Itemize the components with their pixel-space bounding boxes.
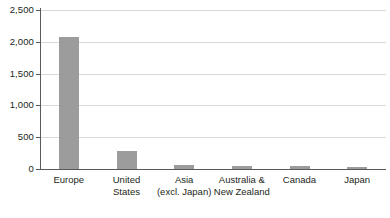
- x-axis-label-canada-line1: Canada: [271, 174, 329, 186]
- bar-japan: [347, 167, 367, 169]
- x-axis-label-japan-line1: Japan: [328, 174, 386, 186]
- x-axis-label-japan: Japan: [328, 174, 386, 186]
- bar-canada: [290, 166, 310, 169]
- x-axis-label-europe-line1: Europe: [40, 174, 98, 186]
- x-axis-label-australia-new-zealand: Australia & New Zealand: [213, 174, 271, 197]
- x-axis-label-united-states-line1: United: [98, 174, 156, 186]
- x-axis-label-united-states: United States: [98, 174, 156, 197]
- bar-asia-excl-japan: [174, 165, 194, 169]
- x-axis-label-united-states-line2: States: [98, 186, 156, 198]
- x-axis-label-australia-new-zealand-line2: New Zealand: [213, 186, 271, 198]
- bar-europe: [59, 37, 79, 169]
- bar-australia-new-zealand: [232, 166, 252, 169]
- x-axis-label-australia-new-zealand-line1: Australia &: [213, 174, 271, 186]
- bar-united-states: [117, 151, 137, 169]
- bar-chart: 2,500 2,000 1,500 1,000 500 0 Europe Uni…: [0, 0, 390, 218]
- x-axis-label-asia-line2: (excl. Japan): [155, 186, 213, 198]
- x-axis-label-europe: Europe: [40, 174, 98, 186]
- x-axis-label-asia-line1: Asia: [155, 174, 213, 186]
- x-axis-label-canada: Canada: [271, 174, 329, 186]
- x-axis-label-asia: Asia (excl. Japan): [155, 174, 213, 197]
